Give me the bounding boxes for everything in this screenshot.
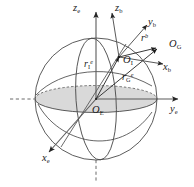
diagram-svg — [0, 0, 194, 187]
vector-r-b-label: rb — [141, 33, 148, 43]
y-body-axis-label: yb — [148, 17, 156, 28]
figure-canvas: ze zb yb OG rb xb OI rIe rGe OE ye xe — [0, 0, 194, 187]
vector-r-G-e-label: rGe — [122, 72, 134, 83]
z-body-axis-label: zb — [115, 3, 123, 14]
z-body-axis-line — [112, 13, 119, 57]
y-earth-axis-label: ye — [170, 104, 178, 115]
z-earth-axis-label: ze — [73, 3, 80, 14]
vector-r-I-e-label: rIe — [84, 59, 93, 70]
target-point-origin-label: OG — [169, 39, 181, 50]
x-body-axis-label: xb — [163, 62, 171, 73]
x-earth-axis-label: xe — [42, 153, 50, 164]
body-origin-label: OI — [123, 55, 133, 66]
earth-center-origin-label: OE — [92, 105, 104, 116]
